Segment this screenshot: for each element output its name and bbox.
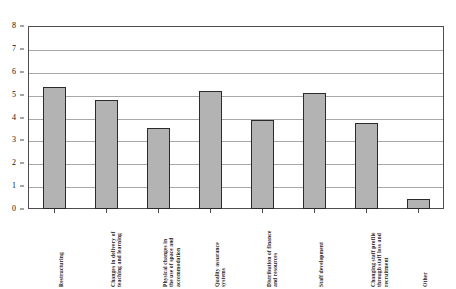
x-axis-tick-mark (54, 209, 55, 213)
y-axis-tick-label: 4 (12, 114, 16, 122)
bar[interactable] (251, 120, 274, 209)
y-axis-tick-mark (20, 163, 24, 164)
y-axis-tick-mark (20, 26, 24, 27)
x-axis-category-label: Staff development (318, 213, 324, 287)
y-axis-tick-mark (20, 117, 24, 118)
gridline (29, 73, 443, 74)
bar[interactable] (355, 123, 378, 209)
y-axis-tick-label: 5 (12, 91, 16, 99)
x-axis-category-label: Other (422, 213, 428, 287)
y-axis-tick-label: 8 (12, 22, 16, 30)
bar[interactable] (407, 199, 430, 209)
y-axis-tick-mark (20, 94, 24, 95)
x-axis-category-label: Quality assurance systems (214, 213, 227, 287)
gridline (29, 50, 443, 51)
bar[interactable] (199, 91, 222, 209)
x-axis-category-label: Changing staff profile through staff los… (370, 213, 389, 287)
bar-chart: 876543210 RestructuringChanges in delive… (0, 0, 456, 289)
y-axis: 876543210 (0, 26, 24, 209)
x-axis-category-label: Changes in delivery of teaching and lear… (110, 213, 123, 287)
bar[interactable] (95, 100, 118, 209)
y-axis-tick-label: 3 (12, 136, 16, 144)
bar[interactable] (147, 128, 170, 209)
y-axis-tick-label: 2 (12, 159, 16, 167)
x-axis-category-label: Physical changes in the use of space and… (162, 213, 181, 287)
y-axis-tick-mark (20, 140, 24, 141)
bar[interactable] (303, 93, 326, 209)
plot-area (28, 26, 444, 209)
gridline (29, 141, 443, 142)
x-axis-category-label: Distribution of finance and resources (266, 213, 279, 287)
x-axis-tick-mark (314, 209, 315, 213)
y-axis-tick-label: 1 (12, 182, 16, 190)
x-axis-tick-mark (106, 209, 107, 213)
gridline (29, 119, 443, 120)
y-axis-tick-mark (20, 209, 24, 210)
x-axis-tick-mark (158, 209, 159, 213)
y-axis-tick-mark (20, 186, 24, 187)
bar[interactable] (43, 87, 66, 209)
gridline (29, 96, 443, 97)
x-axis-tick-mark (418, 209, 419, 213)
gridline (29, 164, 443, 165)
x-axis-tick-mark (366, 209, 367, 213)
y-axis-tick-mark (20, 71, 24, 72)
gridline (29, 187, 443, 188)
y-axis-tick-label: 6 (12, 68, 16, 76)
y-axis-tick-mark (20, 48, 24, 49)
y-axis-tick-label: 7 (12, 45, 16, 53)
x-axis-tick-mark (262, 209, 263, 213)
x-axis-tick-mark (210, 209, 211, 213)
x-axis-category-label: Restructuring (58, 213, 64, 287)
y-axis-tick-label: 0 (12, 205, 16, 213)
x-axis-labels: RestructuringChanges in delivery of teac… (28, 210, 444, 289)
